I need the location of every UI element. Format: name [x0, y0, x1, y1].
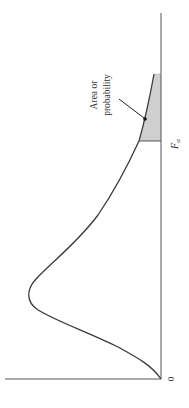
annotation-line-1: Area or	[89, 80, 99, 110]
x-tick-f-alpha: Fα	[169, 139, 182, 150]
density-curve	[29, 74, 161, 379]
x-tick-zero: 0	[166, 376, 176, 381]
f-alpha-subscript: α	[174, 139, 182, 143]
arrow-head-dot	[143, 117, 147, 121]
f-distribution-chart: Area or probability 0 Fα	[0, 0, 189, 408]
annotation-line-2: probability	[102, 74, 112, 116]
annotation-arrow	[119, 99, 144, 118]
